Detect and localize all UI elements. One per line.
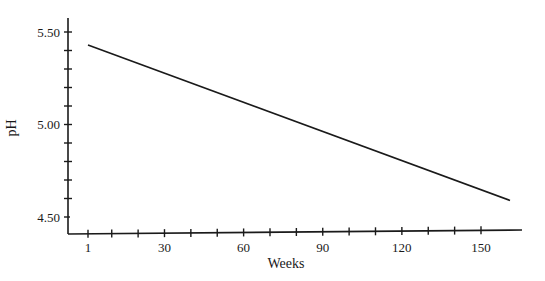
x-tick-label: 30: [158, 240, 171, 255]
ph-trend-line: [88, 45, 510, 200]
x-axis-line: [68, 230, 522, 234]
x-axis-label: Weeks: [268, 256, 305, 271]
x-tick-label: 120: [392, 240, 412, 255]
y-axis-label: pH: [4, 119, 19, 136]
y-tick-label: 5.50: [37, 25, 60, 40]
data-series: [88, 45, 510, 200]
x-tick-label: 1: [85, 240, 92, 255]
x-axis: 1306090120150: [68, 226, 522, 255]
y-tick-label: 5.00: [37, 117, 60, 132]
x-tick-label: 90: [316, 240, 329, 255]
y-axis: 4.505.005.50: [37, 18, 72, 234]
x-tick-label: 60: [237, 240, 250, 255]
y-tick-label: 4.50: [37, 210, 60, 225]
line-chart: 4.505.005.50 1306090120150 Weeks pH: [0, 0, 545, 281]
x-tick-label: 150: [471, 240, 491, 255]
